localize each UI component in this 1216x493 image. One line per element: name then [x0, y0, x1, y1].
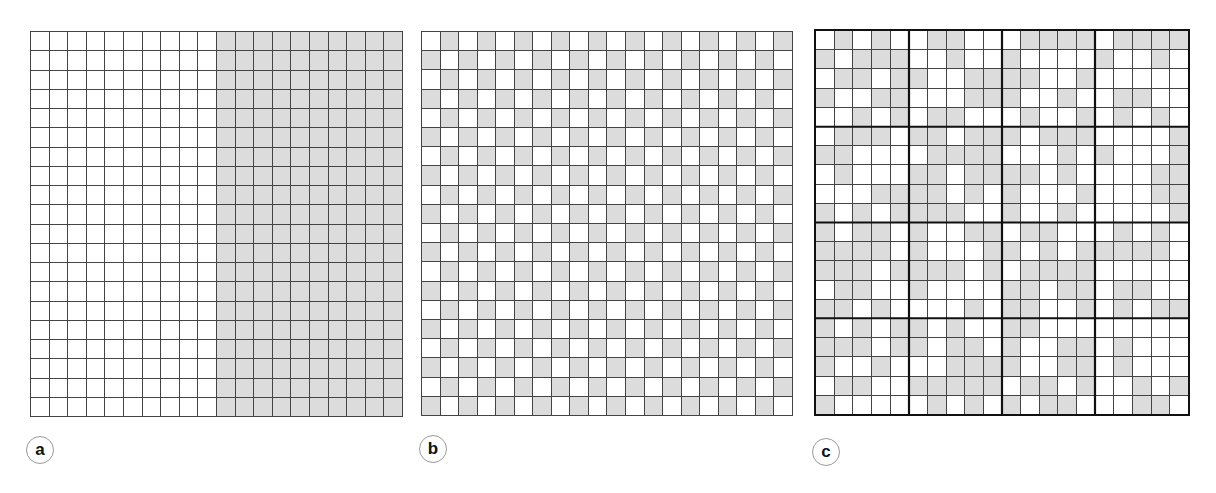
empty-cell — [965, 281, 983, 299]
shaded-cell — [984, 377, 1002, 395]
shaded-cell — [774, 301, 792, 319]
shaded-cell — [236, 71, 254, 89]
empty-cell — [87, 128, 105, 146]
shaded-cell — [254, 321, 272, 339]
empty-cell — [87, 71, 105, 89]
shaded-cell — [329, 244, 347, 262]
shaded-cell — [441, 224, 459, 242]
shaded-cell — [965, 165, 983, 183]
shaded-cell — [329, 340, 347, 358]
shaded-cell — [570, 358, 588, 376]
empty-cell — [853, 185, 871, 203]
empty-cell — [663, 128, 681, 146]
empty-cell — [626, 320, 644, 338]
empty-cell — [891, 300, 909, 318]
shaded-cell — [947, 31, 965, 49]
empty-cell — [31, 205, 49, 223]
empty-cell — [180, 148, 198, 166]
empty-cell — [872, 165, 890, 183]
shaded-cell — [1002, 165, 1020, 183]
shaded-cell — [1002, 204, 1020, 222]
shaded-cell — [366, 51, 384, 69]
empty-cell — [1002, 108, 1020, 126]
empty-cell — [422, 109, 440, 127]
shaded-cell — [774, 32, 792, 50]
empty-cell — [719, 224, 737, 242]
empty-cell — [496, 339, 514, 357]
empty-cell — [756, 147, 774, 165]
empty-cell — [835, 50, 853, 68]
shaded-cell — [853, 338, 871, 356]
empty-cell — [1096, 108, 1114, 126]
empty-cell — [105, 321, 123, 339]
empty-cell — [1096, 357, 1114, 375]
empty-cell — [853, 357, 871, 375]
empty-cell — [947, 89, 965, 107]
shaded-cell — [1114, 223, 1132, 241]
empty-cell — [984, 281, 1002, 299]
empty-cell — [87, 263, 105, 281]
empty-cell — [816, 377, 834, 395]
shaded-cell — [384, 398, 402, 416]
shaded-cell — [496, 397, 514, 415]
empty-cell — [774, 320, 792, 338]
shaded-cell — [273, 167, 291, 185]
empty-cell — [68, 109, 86, 127]
empty-cell — [1096, 89, 1114, 107]
shaded-cell — [496, 205, 514, 223]
empty-cell — [180, 359, 198, 377]
empty-cell — [87, 359, 105, 377]
empty-cell — [198, 263, 216, 281]
empty-cell — [50, 186, 68, 204]
empty-cell — [1133, 127, 1151, 145]
shaded-cell — [928, 108, 946, 126]
shaded-cell — [515, 186, 533, 204]
empty-cell — [1058, 223, 1076, 241]
shaded-cell — [291, 398, 309, 416]
empty-cell — [105, 109, 123, 127]
empty-cell — [68, 90, 86, 108]
empty-cell — [552, 90, 570, 108]
empty-cell — [1096, 185, 1114, 203]
empty-cell — [1133, 165, 1151, 183]
shaded-cell — [254, 148, 272, 166]
shaded-cell — [756, 205, 774, 223]
shaded-cell — [774, 224, 792, 242]
empty-cell — [31, 359, 49, 377]
shaded-cell — [682, 166, 700, 184]
shaded-cell — [947, 261, 965, 279]
empty-cell — [928, 223, 946, 241]
shaded-cell — [1096, 146, 1114, 164]
shaded-cell — [1077, 242, 1095, 260]
shaded-cell — [236, 205, 254, 223]
shaded-cell — [682, 90, 700, 108]
empty-cell — [737, 358, 755, 376]
shaded-cell — [310, 263, 328, 281]
empty-cell — [161, 340, 179, 358]
shaded-cell — [422, 397, 440, 415]
empty-cell — [719, 186, 737, 204]
shaded-cell — [384, 321, 402, 339]
empty-cell — [68, 244, 86, 262]
empty-cell — [626, 358, 644, 376]
empty-cell — [143, 148, 161, 166]
empty-cell — [700, 358, 718, 376]
empty-cell — [756, 301, 774, 319]
shaded-cell — [1002, 319, 1020, 337]
empty-cell — [478, 90, 496, 108]
empty-cell — [872, 377, 890, 395]
empty-cell — [645, 109, 663, 127]
shaded-cell — [1133, 377, 1151, 395]
empty-cell — [31, 186, 49, 204]
empty-cell — [143, 263, 161, 281]
shaded-cell — [254, 282, 272, 300]
shaded-cell — [515, 147, 533, 165]
shaded-cell — [719, 358, 737, 376]
shaded-cell — [552, 186, 570, 204]
shaded-cell — [254, 167, 272, 185]
shaded-cell — [607, 282, 625, 300]
shaded-cell — [853, 127, 871, 145]
shaded-cell — [1002, 50, 1020, 68]
shaded-cell — [310, 90, 328, 108]
empty-cell — [737, 243, 755, 261]
